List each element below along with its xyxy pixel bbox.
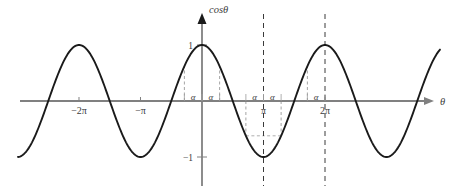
x-axis-label: θ — [440, 96, 445, 107]
alpha-label-3: α — [270, 92, 275, 102]
y-axis-arrowhead — [198, 13, 207, 24]
cosine-plot-svg: −2π−ππ2π1−1αααααcosθθ — [0, 0, 456, 191]
labels-group: −2π−ππ2π1−1αααααcosθθ — [71, 4, 445, 163]
x-axis-arrowhead — [424, 97, 434, 105]
cosine-graph-figure: −2π−ππ2π1−1αααααcosθθ — [0, 0, 456, 191]
alpha-label-1: α — [208, 92, 213, 102]
x-tick-label-3: 2π — [320, 105, 330, 116]
y-tick-label-1: −1 — [183, 153, 193, 163]
alpha-label-4: α — [314, 92, 319, 102]
alpha-label-0: α — [191, 92, 196, 102]
x-tick-label-0: −2π — [71, 105, 87, 116]
x-tick-label-1: −π — [135, 105, 146, 116]
y-tick-label-0: 1 — [188, 41, 193, 51]
axes-group — [20, 13, 434, 186]
y-axis-label: cosθ — [209, 4, 228, 15]
x-tick-label-2: π — [261, 105, 266, 116]
alpha-label-2: α — [252, 92, 257, 102]
